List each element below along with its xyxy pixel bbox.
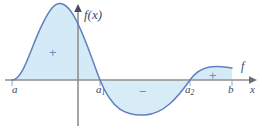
x-tick-label-a2: a2 bbox=[185, 84, 194, 95]
sign-annotation-positive-2: + bbox=[209, 69, 217, 82]
x-tick-label-a: a bbox=[12, 84, 18, 95]
x-tick-label-b: b bbox=[228, 84, 234, 95]
sign-annotation-positive-1: + bbox=[49, 46, 57, 59]
curve-label-f: f bbox=[241, 60, 244, 72]
y-axis-arrowhead bbox=[74, 4, 82, 12]
x-axis-label: x bbox=[250, 84, 255, 95]
sign-annotation-negative: − bbox=[139, 85, 147, 98]
graph-svg bbox=[0, 0, 262, 130]
figure-canvas: f(x) x f a a1 a2 b + − + bbox=[0, 0, 262, 130]
y-axis-label: f(x) bbox=[84, 8, 102, 21]
x-tick-label-a1: a1 bbox=[96, 84, 105, 95]
